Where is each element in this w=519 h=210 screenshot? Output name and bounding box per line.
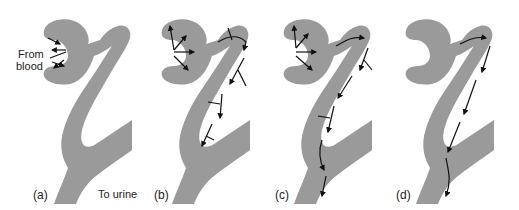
panel-label-c: (c) bbox=[275, 188, 289, 202]
panel-label-b: (b) bbox=[154, 188, 169, 202]
to-urine-label: To urine bbox=[98, 188, 137, 200]
panel-label-a: (a) bbox=[33, 188, 48, 202]
nephron-figure: From blood To urine (a) (b) (c) (d) bbox=[0, 0, 519, 210]
from-blood-label: From blood bbox=[18, 48, 44, 72]
panel-label-d: (d) bbox=[396, 188, 411, 202]
panel-b bbox=[162, 19, 250, 204]
panel-d bbox=[406, 19, 494, 204]
panel-c bbox=[284, 19, 372, 204]
panel-a bbox=[44, 19, 132, 204]
